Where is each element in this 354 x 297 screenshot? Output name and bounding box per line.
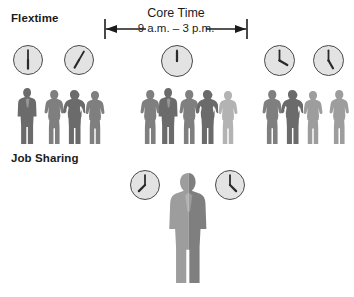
person-woman	[328, 90, 350, 144]
flexible-work-arrangements-diagram: Flextime Core Time 9 a.m. – 3 p.m. Job S…	[0, 0, 354, 297]
shared-job-person	[166, 173, 212, 287]
